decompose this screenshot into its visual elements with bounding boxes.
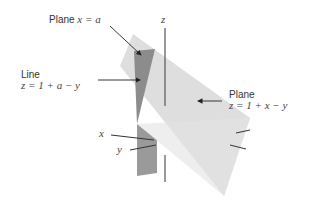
label-line: Line z = 1 + a − y	[21, 69, 80, 91]
label-math: z = 1 + a − y	[21, 80, 80, 91]
label-plane-x-equals-a: Plane x = a	[49, 14, 101, 25]
label-plane-z: Plane z = 1 + x − y	[229, 89, 287, 111]
label-math: x = a	[77, 13, 100, 25]
axis-label-x: x	[99, 128, 104, 139]
label-math: z = 1 + x − y	[229, 100, 287, 111]
axis-label-z: z	[161, 14, 165, 25]
diagram-canvas: Plane x = a Line z = 1 + a − y Plane z =…	[0, 0, 320, 203]
label-word: Plane	[49, 14, 75, 25]
axis-label-y: y	[117, 144, 122, 155]
